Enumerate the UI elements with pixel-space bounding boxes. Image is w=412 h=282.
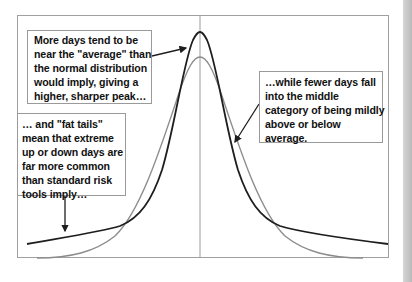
annotation-line: More days tend to be — [34, 33, 145, 47]
annotation-line: than standard risk — [22, 173, 119, 187]
annotation-line: into the middle — [265, 89, 376, 103]
annotation-line: … and "fat tails" — [22, 117, 119, 131]
arrow-to-peak — [152, 48, 186, 56]
annotation-line: far more common — [22, 159, 119, 173]
annotation-line: above or below — [265, 117, 376, 131]
annotation-line: tools imply… — [22, 187, 119, 201]
annotation-line: would imply, giving a — [34, 75, 145, 89]
annotation-line: near the "average" than — [34, 47, 145, 61]
annotation-peak: More days tend to be near the "average" … — [27, 30, 152, 104]
annotation-middle-category: …while fewer days fall into the middle c… — [259, 71, 383, 143]
annotation-line: average. — [265, 131, 376, 145]
annotation-line: …while fewer days fall — [265, 75, 376, 89]
annotation-line: higher, sharper peak… — [34, 89, 145, 103]
annotation-line: mean that extreme — [22, 131, 119, 145]
annotation-line: the normal distribution — [34, 61, 145, 75]
annotation-fat-tails: … and "fat tails" mean that extreme up o… — [17, 113, 126, 196]
annotation-line: category of being mildly — [265, 103, 376, 117]
arrow-to-shoulder — [235, 104, 259, 142]
annotation-line: up or down days are — [22, 145, 119, 159]
